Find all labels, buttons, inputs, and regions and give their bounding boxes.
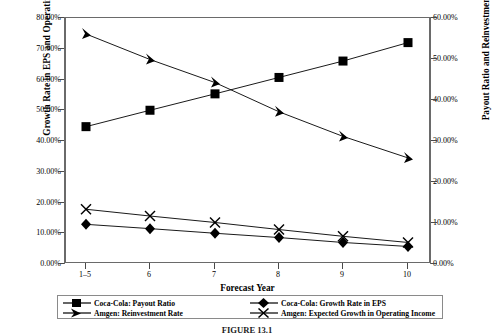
x-tick-label: 10 [387,270,427,279]
figure-container: Growth Rate in EPS and Operating Income … [0,0,494,335]
x-tick-label: 1–5 [65,270,105,279]
figure-caption: FIGURE 13.1 [0,325,494,335]
left-tick-label: 30.00% [15,168,61,176]
diamond-marker-icon [249,298,279,308]
left-tick-label: 50.00% [15,106,61,114]
right-axis-tick-labels: 60.00% 50.00% 40.00% 30.00% 20.00% 10.00… [433,0,485,280]
left-axis-tick-labels: 80.00% 70.00% 60.00% 50.00% 40.00% 30.00… [9,0,61,280]
left-tick-label: 20.00% [15,199,61,207]
left-tick-label: 70.00% [15,45,61,53]
x-tick-label: 9 [322,270,362,279]
x-tick-label: 8 [258,270,298,279]
legend-label: Coca-Cola: Growth Rate in EPS [281,299,386,308]
left-tick-label: 80.00% [15,14,61,22]
series-layer [66,18,431,264]
x-tick-label: 6 [129,270,169,279]
legend-label: Amgen: Expected Growth in Operating Inco… [281,309,435,318]
left-tick-label: 60.00% [15,76,61,84]
right-tick-label: 60.00% [433,14,481,22]
right-tick-label: 10.00% [433,219,481,227]
left-tick-label: 10.00% [15,229,61,237]
legend-label: Amgen: Reinvestment Rate [94,309,183,318]
left-tick-label: 40.00% [15,137,61,145]
x-axis-title: Forecast Year [65,283,430,293]
chart-legend: Coca-Cola: Payout Ratio Amgen: Reinvestm… [57,295,443,319]
left-tick-label: 0.00% [15,260,61,268]
legend-label: Coca-Cola: Payout Ratio [94,299,175,308]
triangle-marker-icon [62,308,92,318]
cross-marker-icon [249,308,279,318]
right-tick-label: 40.00% [433,96,481,104]
right-tick-label: 30.00% [433,137,481,145]
plot-area [65,17,430,263]
right-tick-label: 20.00% [433,178,481,186]
square-marker-icon [62,298,92,308]
x-tick-label: 7 [194,270,234,279]
right-tick-label: 0.00% [433,260,481,268]
right-tick-label: 50.00% [433,55,481,63]
